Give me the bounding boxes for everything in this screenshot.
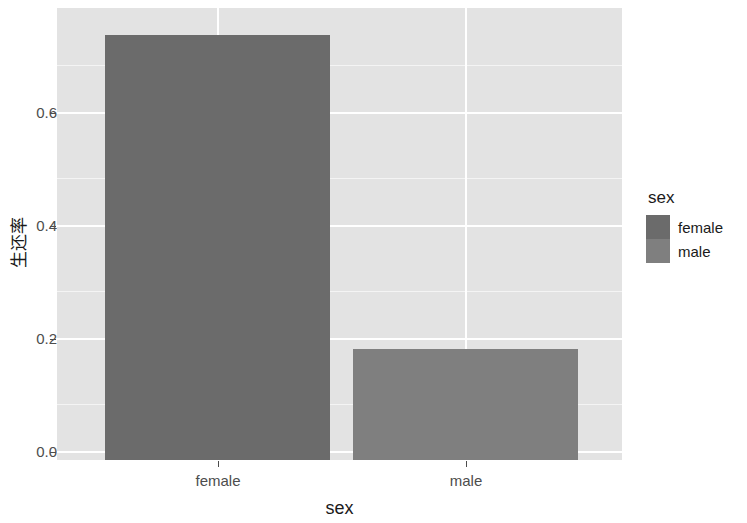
bar-male[interactable] — [353, 349, 578, 460]
y-tick-mark-0 — [50, 113, 56, 114]
x-axis-title: sex — [57, 498, 622, 519]
x-tick-mark-male — [466, 461, 467, 467]
y-tick-mark-3 — [50, 452, 56, 453]
legend-key-male — [646, 239, 670, 263]
chart-panel — [57, 8, 622, 460]
y-tick-mark-1 — [50, 226, 56, 227]
legend-title: sex — [646, 188, 747, 208]
plot-root: 生还率 0.6 0.4 0.2 0.0 female male sex — [0, 0, 747, 523]
x-tick-label-male: male — [450, 472, 483, 489]
x-tick-label-female: female — [195, 472, 240, 489]
y-tick-mark-2 — [50, 339, 56, 340]
legend-item-female[interactable]: female — [646, 215, 747, 239]
y-axis: 0.6 0.4 0.2 0.0 — [0, 0, 57, 523]
x-tick-mark-female — [218, 461, 219, 467]
legend-label-female: female — [678, 219, 723, 236]
legend: sex female male — [646, 188, 747, 263]
legend-label-male: male — [678, 243, 711, 260]
legend-item-male[interactable]: male — [646, 239, 747, 263]
bar-female[interactable] — [105, 35, 330, 460]
legend-key-female — [646, 215, 670, 239]
